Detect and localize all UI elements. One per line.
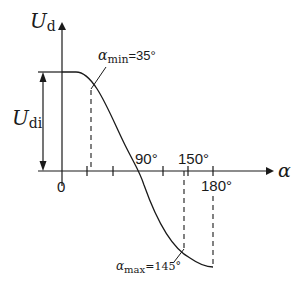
rectifier-voltage-diagram: Ud Udi α 0 90° 150° 180° αmin=35° αmax=1…: [0, 0, 298, 288]
udi-arrow-head-down: [40, 161, 47, 171]
tick-label-180: 180°: [201, 177, 232, 194]
udi-label: Udi: [12, 106, 43, 131]
alpha-max-label: αmax=145°: [116, 259, 181, 275]
y-axis-label: Ud: [30, 9, 56, 34]
alpha-min-leader: [91, 67, 106, 89]
alpha-min-label: αmin=35°: [98, 47, 156, 66]
tick-label-0: 0: [57, 178, 65, 195]
x-axis-label: α: [278, 159, 291, 181]
voltage-curve: [62, 72, 213, 267]
udi-arrow-head-up: [40, 72, 47, 82]
tick-label-90: 90°: [135, 150, 158, 167]
tick-label-150: 150°: [178, 150, 209, 167]
